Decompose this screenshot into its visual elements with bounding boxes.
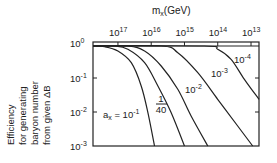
y-axis-title-line-3: baryon number <box>29 81 40 145</box>
label-alpha-1e-2: 10-2 <box>185 83 202 95</box>
label-alpha-0.1: ax = 10-1 <box>103 108 140 121</box>
y-axis-title-line-1: Efficiency <box>5 104 16 145</box>
y-tick-label: 10-1 <box>70 72 87 84</box>
series-curve-0 <box>93 46 155 146</box>
series-curve-3 <box>93 46 253 146</box>
y-axis-title-line-4: from given ΔB <box>41 85 52 145</box>
series-curve-2 <box>93 46 208 146</box>
x-axis-ticks: 10171016101510141013 <box>109 26 261 46</box>
label-alpha-1-40: 1 40 <box>156 93 167 115</box>
x-tick-label: 1014 <box>209 26 227 38</box>
svg-text:1: 1 <box>158 93 163 104</box>
efficiency-vs-mass-chart: mx(GeV) Efficiency for generating baryon… <box>0 0 277 163</box>
y-axis-title-line-2: for generating <box>17 86 28 145</box>
y-tick-label: 10-3 <box>70 140 87 152</box>
x-axis-title-main: m <box>152 5 160 16</box>
x-tick-label: 1016 <box>142 26 160 38</box>
svg-text:40: 40 <box>156 104 167 115</box>
y-tick-label: 10-2 <box>70 106 87 118</box>
x-tick-label: 1017 <box>109 26 127 38</box>
svg-text:mx(GeV): mx(GeV) <box>152 5 191 17</box>
label-alpha-1e-3: 10-3 <box>211 67 228 79</box>
x-tick-label: 1015 <box>175 26 193 38</box>
series-curve-1 <box>93 46 185 146</box>
y-tick-label: 100 <box>70 37 85 49</box>
y-axis-title: Efficiency for generating baryon number … <box>5 81 52 145</box>
x-tick-label: 1013 <box>242 26 260 38</box>
y-axis-ticks: 10010-110-210-3 <box>70 37 259 152</box>
x-axis-title: mx(GeV) <box>152 5 191 17</box>
x-axis-title-unit: (GeV) <box>164 5 191 16</box>
label-alpha-1e-4: 10-4 <box>234 53 251 65</box>
